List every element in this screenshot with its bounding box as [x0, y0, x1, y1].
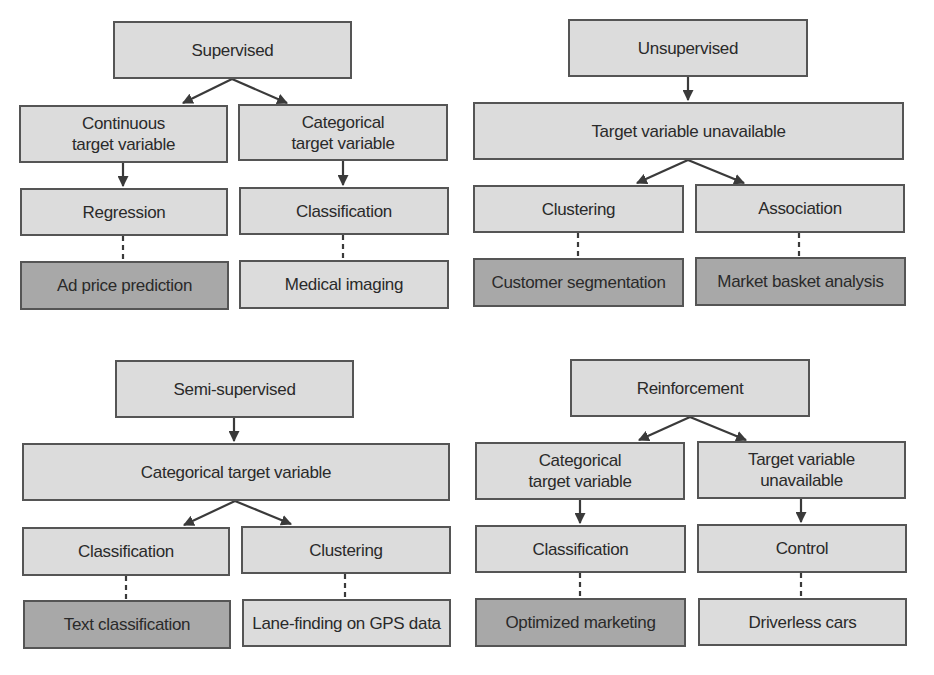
arrow-reinforcement-to-unavailable — [690, 417, 746, 440]
node-semi-supervised: Semi-supervised — [115, 360, 354, 418]
node-association: Association — [695, 184, 905, 233]
example-driverless-cars: Driverless cars — [698, 598, 907, 646]
node-classification-rl: Classification — [475, 525, 686, 573]
node-clustering: Clustering — [473, 185, 684, 233]
example-optimized-marketing: Optimized marketing — [475, 598, 686, 647]
node-clustering-semi: Clustering — [241, 526, 451, 574]
arrow-target-to-association — [688, 160, 744, 183]
node-target-variable-unavailable: Target variable unavailable — [473, 102, 904, 160]
example-market-basket-analysis: Market basket analysis — [695, 257, 906, 306]
arrow-target-to-clustering — [637, 160, 688, 183]
ml-types-diagram: Supervised Continuous target variable Ca… — [0, 0, 934, 675]
node-target-variable-unavailable-rl: Target variable unavailable — [697, 441, 906, 499]
example-text-classification: Text classification — [23, 600, 231, 649]
example-medical-imaging: Medical imaging — [239, 260, 449, 309]
example-ad-price-prediction: Ad price prediction — [20, 261, 229, 310]
arrow-categorical-to-clustering-semi — [235, 501, 291, 524]
example-lane-finding-gps: Lane-finding on GPS data — [242, 599, 451, 647]
node-supervised: Supervised — [113, 21, 352, 79]
arrow-reinforcement-to-categorical — [639, 417, 690, 440]
node-categorical-target-variable-semi: Categorical target variable — [22, 443, 450, 501]
node-classification: Classification — [239, 187, 449, 235]
arrow-supervised-to-continuous — [183, 79, 232, 103]
node-control: Control — [697, 524, 907, 573]
node-categorical-target-variable-rl: Categorical target variable — [475, 442, 685, 500]
node-categorical-target-variable: Categorical target variable — [238, 104, 448, 161]
node-regression: Regression — [20, 188, 228, 236]
example-customer-segmentation: Customer segmentation — [473, 258, 684, 307]
node-classification-semi: Classification — [22, 527, 230, 576]
node-continuous-target-variable: Continuous target variable — [19, 105, 228, 163]
arrow-supervised-to-categorical — [232, 79, 287, 103]
arrow-categorical-to-classification-semi — [184, 501, 235, 525]
node-reinforcement: Reinforcement — [570, 359, 810, 417]
node-unsupervised: Unsupervised — [568, 19, 808, 77]
